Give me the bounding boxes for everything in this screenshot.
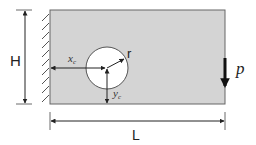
- load-label: p: [235, 59, 245, 78]
- fixed-support-hatching: [42, 14, 49, 102]
- radius-label: r: [127, 46, 132, 61]
- length-label: L: [132, 127, 140, 143]
- height-label: H: [10, 52, 21, 69]
- plate-diagram: H xc yc r p L: [0, 0, 256, 145]
- plate: [50, 10, 225, 104]
